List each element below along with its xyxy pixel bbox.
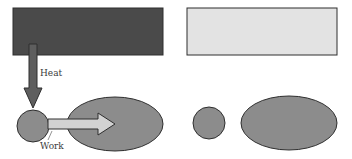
work-label: Work: [40, 141, 64, 151]
left-panel: Heat Work: [13, 8, 163, 151]
heat-engine-diagram: Heat Work: [0, 0, 352, 159]
cold-reservoir: [187, 8, 337, 55]
right-target-ellipse: [241, 96, 337, 150]
right-panel: [187, 8, 337, 150]
left-engine-circle: [17, 110, 49, 142]
right-engine-circle: [193, 107, 225, 139]
work-leader-line: [48, 131, 52, 140]
heat-label: Heat: [40, 68, 63, 78]
